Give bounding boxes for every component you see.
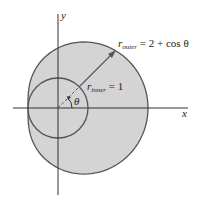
x-axis-label: x [181,107,187,119]
outer-curve-label: router = 2 + cos θ [118,37,189,51]
y-axis-label: y [60,9,66,21]
polar-diagram: y x θ router = 2 + cos θ rinner = 1 [0,0,198,206]
angle-label: θ [74,95,80,107]
